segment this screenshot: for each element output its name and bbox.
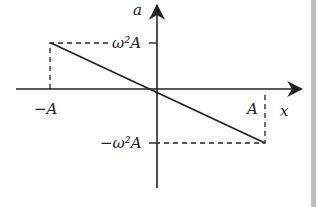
- label-neg-w2A: −ω²A: [100, 134, 142, 152]
- label-w2A: ω²A: [112, 34, 141, 52]
- x-axis-label: x: [280, 102, 289, 120]
- side-bar: [311, 0, 316, 207]
- acceleration-displacement-graph: a x −A A ω²A −ω²A: [0, 0, 318, 207]
- label-neg-A: −A: [34, 100, 58, 118]
- data-line: [51, 43, 265, 143]
- label-A: A: [245, 100, 258, 118]
- y-axis-label: a: [133, 1, 142, 19]
